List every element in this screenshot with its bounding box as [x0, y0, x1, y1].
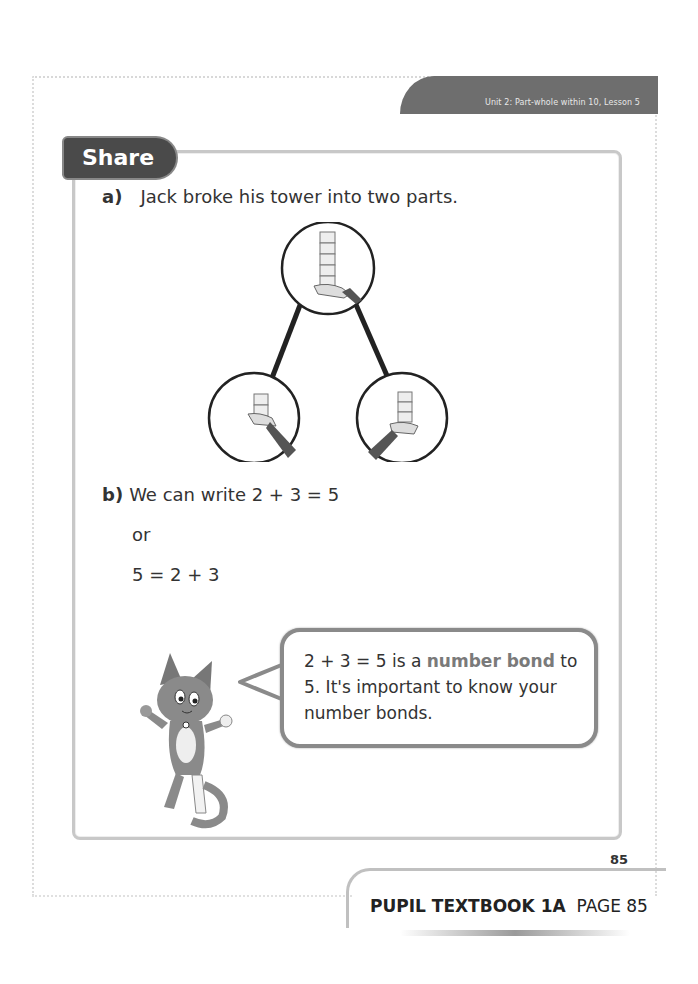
- connector-line-left: [272, 300, 302, 378]
- or-text: or: [132, 524, 150, 545]
- equation-alternative: 5 = 2 + 3: [132, 564, 219, 585]
- cat-character-icon: [130, 645, 240, 830]
- footer-shadow: [400, 930, 630, 936]
- question-b-text: We can write 2 + 3 = 5: [129, 484, 339, 505]
- footer-page-label: PAGE 85: [576, 896, 647, 916]
- footer-label: PUPIL TEXTBOOK 1A PAGE 85: [370, 896, 648, 916]
- part-circle-right: [357, 373, 447, 462]
- question-a: a)Jack broke his tower into two parts.: [102, 186, 458, 207]
- connector-line-right: [354, 300, 388, 378]
- unit-lesson-tab: Unit 2: Part-whole within 10, Lesson 5: [400, 76, 658, 114]
- section-title: Share: [82, 145, 154, 170]
- cube-tower-2-icon: [254, 394, 268, 416]
- cube-tower-3-icon: [398, 392, 412, 422]
- speech-bubble-text: 2 + 3 = 5 is a number bond to 5. It's im…: [304, 648, 594, 726]
- page-bottom-edge: [32, 895, 352, 897]
- page-number: 85: [610, 852, 628, 867]
- question-b: b)We can write 2 + 3 = 5: [102, 484, 339, 505]
- question-b-letter: b): [102, 484, 123, 505]
- cube-tower-5-icon: [320, 232, 335, 287]
- number-bond-term: number bond: [427, 651, 555, 671]
- book-label: PUPIL TEXTBOOK 1A: [370, 896, 566, 916]
- bubble-text-part1: 2 + 3 = 5 is a: [304, 651, 427, 671]
- question-a-text: Jack broke his tower into two parts.: [140, 186, 458, 207]
- part-circle-left: [209, 373, 299, 462]
- whole-circle: [282, 222, 374, 314]
- part-whole-diagram: [200, 222, 460, 462]
- unit-label: Unit 2: Part-whole within 10, Lesson 5: [485, 98, 640, 107]
- question-a-letter: a): [102, 186, 122, 207]
- section-title-badge: Share: [64, 138, 176, 178]
